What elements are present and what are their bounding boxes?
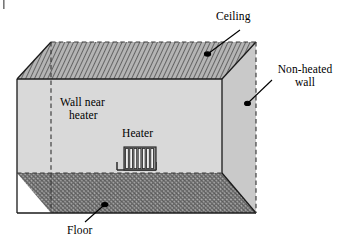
heater-fin [147,148,150,168]
ceiling-face [17,42,256,79]
heater-fin [134,148,137,168]
heater-fin [151,148,154,168]
floor-face [17,173,256,213]
heater-fin [130,148,133,168]
figure-canvas: Ceiling Non-heatedwall Wall nearheater H… [0,0,342,246]
label-heater: Heater [122,127,153,140]
non-heated-wall-leader-dot [245,101,251,105]
label-floor: Floor [67,224,92,237]
ceiling-leader-dot [204,52,210,56]
heater-fin [126,148,129,168]
floor-leader-dot [102,203,108,207]
label-wall-near-heater-line1: Wall near [60,96,105,108]
label-wall-near-heater-line2: heater [60,109,138,122]
heater-fin [142,148,145,168]
heater-fins [126,148,154,168]
label-non-heated-wall: Non-heatedwall [272,63,338,89]
label-wall-near-heater: Wall nearheater [60,96,138,122]
label-ceiling: Ceiling [216,10,251,23]
room-diagram-svg [0,0,342,246]
back-wall-face [17,79,222,173]
crop-tick-icon [3,0,5,9]
heater-fin [138,148,141,168]
label-non-heated-wall-line1: Non-heated [278,63,333,75]
label-non-heated-wall-line2: wall [295,76,315,88]
